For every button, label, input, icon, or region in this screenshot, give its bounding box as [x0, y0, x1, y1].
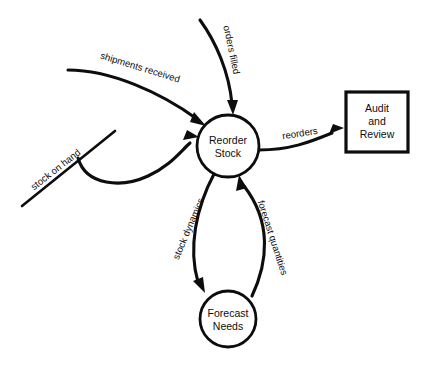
flow-forecast-quantities: forecast quantities — [236, 175, 290, 296]
flow-label-shipments-received: shipments received — [99, 50, 181, 85]
flow-label-stock-on-hand: stock on hand — [28, 147, 82, 192]
process-reorder-stock-label-line2: Stock — [215, 147, 242, 159]
flow-orders-filled-arrowhead — [227, 100, 238, 115]
flow-stock-dynamics-arrowhead — [193, 277, 205, 293]
flow-orders-filled: orders filled — [200, 20, 242, 115]
process-reorder-stock-label-line1: Reorder — [209, 134, 247, 146]
entity-audit-and-review-label-line3: Review — [360, 128, 395, 140]
flow-label-stock-dynamics: stock dynamics — [170, 196, 206, 261]
flow-stock-on-hand — [78, 130, 199, 183]
entity-audit-and-review: Audit and Review — [346, 92, 408, 152]
entity-audit-and-review-label-line1: Audit — [365, 102, 389, 114]
process-forecast-needs-label-line2: Needs — [213, 320, 243, 332]
flow-reorders: reorders — [259, 124, 344, 150]
diagram-canvas: shipments received orders filled stock o… — [0, 0, 424, 374]
data-flow-diagram: shipments received orders filled stock o… — [0, 0, 424, 374]
entity-audit-and-review-label-line2: and — [368, 115, 386, 127]
flow-stock-dynamics-path — [194, 174, 214, 282]
process-forecast-needs-label-line1: Forecast — [208, 307, 249, 319]
flow-reorders-arrowhead — [329, 124, 344, 134]
data-store-stock-on-hand: stock on hand — [22, 131, 115, 206]
flow-stock-dynamics: stock dynamics — [170, 174, 214, 293]
data-store-stock-on-hand-line — [22, 131, 115, 206]
process-forecast-needs: Forecast Needs — [200, 291, 256, 347]
process-reorder-stock: Reorder Stock — [197, 115, 259, 177]
flow-label-forecast-quantities: forecast quantities — [256, 199, 291, 277]
flow-stock-on-hand-path — [78, 143, 190, 183]
flow-shipments-received: shipments received — [68, 50, 206, 126]
